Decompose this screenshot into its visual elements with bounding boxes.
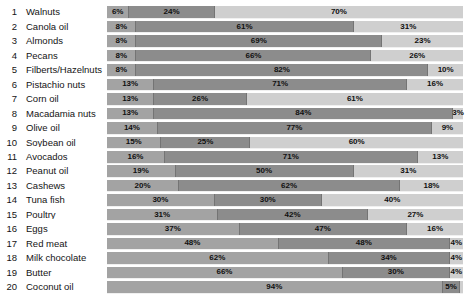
chart-row: 19 Butter 66% 30% 4% <box>4 265 463 279</box>
segment-1-value-label: 8% <box>115 37 127 45</box>
screenshot-canvas: 1 Walnuts 6% 24% 70% 2 Canola oil 8% 61%… <box>0 0 467 300</box>
segment-3-value-label: 40% <box>384 196 400 204</box>
bar-segment-3: 4% <box>449 267 463 279</box>
segment-2-value-label: 61% <box>237 23 253 31</box>
segment-2-value-label: 26% <box>192 95 208 103</box>
bar-segment-1: 31% <box>107 209 217 221</box>
bar-segment-3: 31% <box>353 21 463 33</box>
chart-row: 15 Poultry 31% 42% 27% <box>4 207 463 221</box>
chart-row: 18 Milk chocolate 62% 34% 4% <box>4 251 463 265</box>
bar-segment-1: 19% <box>107 165 175 177</box>
bar-segment-2: 30% <box>214 194 321 206</box>
segment-1-value-label: 13% <box>122 109 138 117</box>
segment-3-value-label: 10% <box>438 66 454 74</box>
stacked-bar: 20% 62% 18% <box>107 180 463 192</box>
segment-1-value-label: 8% <box>115 66 127 74</box>
stacked-bar: 8% 61% 31% <box>107 21 463 33</box>
stacked-bar: 16% 71% 13% <box>107 151 463 163</box>
stacked-bar: 13% 26% 61% <box>107 93 463 105</box>
segment-2-value-label: 66% <box>245 52 261 60</box>
segment-1-value-label: 14% <box>124 124 140 132</box>
segment-3-value-label: 70% <box>331 8 347 16</box>
segment-1-value-label: 48% <box>184 239 200 247</box>
segment-1-value-label: 66% <box>216 268 232 276</box>
bar-segment-1: 20% <box>107 180 178 192</box>
bar-segment-1: 94% <box>107 281 442 293</box>
segment-2-value-label: 82% <box>274 66 290 74</box>
stacked-bar: 30% 30% 40% <box>107 194 463 206</box>
segment-3-value-label: 31% <box>400 167 416 175</box>
segment-2-value-label: 77% <box>286 124 302 132</box>
bar-segment-1: 13% <box>107 93 153 105</box>
segment-3-value-label: 16% <box>427 80 443 88</box>
stacked-bar: 94% 5% <box>107 281 463 293</box>
stacked-bar: 19% 50% 31% <box>107 165 463 177</box>
bar-segment-2: 24% <box>128 6 213 18</box>
chart-row: 2 Canola oil 8% 61% 31% <box>4 19 463 33</box>
bar-segment-3: 16% <box>406 223 463 235</box>
bar-segment-2: 61% <box>135 21 352 33</box>
bar-segment-2: 48% <box>278 238 449 250</box>
row-label: Cashews <box>17 181 107 191</box>
row-label: Coconut oil <box>17 282 107 292</box>
row-rank: 3 <box>4 36 17 46</box>
row-label: Avocados <box>17 152 107 162</box>
segment-3-value-label: 4% <box>451 239 463 247</box>
stacked-bar: 8% 82% 10% <box>107 64 463 76</box>
segment-2-value-label: 69% <box>251 37 267 45</box>
segment-3-value-label: 27% <box>407 211 423 219</box>
bar-segment-1: 13% <box>107 108 153 120</box>
row-label: Pecans <box>17 51 107 61</box>
segment-3-value-label: 16% <box>427 225 443 233</box>
segment-2-value-label: 24% <box>164 8 180 16</box>
segment-3-value-label: 18% <box>423 182 439 190</box>
bar-segment-2: 34% <box>328 252 449 264</box>
bar-segment-1: 48% <box>107 238 278 250</box>
segment-1-value-label: 15% <box>126 138 142 146</box>
segment-2-value-label: 62% <box>281 182 297 190</box>
bar-segment-2: 82% <box>135 64 427 76</box>
row-label: Olive oil <box>17 123 107 133</box>
chart-row: 8 Macadamia nuts 13% 84% 3% <box>4 106 463 120</box>
segment-2-value-label: 30% <box>388 268 404 276</box>
bar-segment-3: 3% <box>452 108 463 120</box>
stacked-bar-chart: 1 Walnuts 6% 24% 70% 2 Canola oil 8% 61%… <box>0 0 467 300</box>
row-rank: 4 <box>4 51 17 61</box>
row-rank: 12 <box>4 166 17 176</box>
bar-segment-2: 5% <box>442 281 460 293</box>
segment-3-value-label: 26% <box>409 52 425 60</box>
bar-segment-3: 18% <box>399 180 463 192</box>
segment-1-value-label: 37% <box>165 225 181 233</box>
row-label: Pistachio nuts <box>17 80 107 90</box>
row-label: Red meat <box>17 239 107 249</box>
bar-segment-3: 40% <box>321 194 463 206</box>
segment-1-value-label: 94% <box>266 283 282 291</box>
segment-1-value-label: 13% <box>122 95 138 103</box>
segment-2-value-label: 5% <box>445 283 457 291</box>
bar-segment-2: 50% <box>175 165 353 177</box>
segment-3-value-label: 13% <box>432 153 448 161</box>
chart-row: 11 Avocados 16% 71% 13% <box>4 150 463 164</box>
bar-segment-3: 9% <box>431 122 463 134</box>
row-label: Milk chocolate <box>17 253 107 263</box>
segment-2-value-label: 48% <box>356 239 372 247</box>
segment-1-value-label: 19% <box>133 167 149 175</box>
stacked-bar: 13% 84% 3% <box>107 108 463 120</box>
row-rank: 19 <box>4 268 17 278</box>
bar-segment-3: 26% <box>370 50 463 62</box>
stacked-bar: 31% 42% 27% <box>107 209 463 221</box>
chart-row: 14 Tuna fish 30% 30% 40% <box>4 193 463 207</box>
chart-row: 1 Walnuts 6% 24% 70% <box>4 5 463 19</box>
bar-segment-2: 84% <box>153 108 452 120</box>
segment-1-value-label: 31% <box>154 211 170 219</box>
bar-segment-1: 66% <box>107 267 342 279</box>
bar-segment-1: 13% <box>107 79 153 91</box>
stacked-bar: 15% 25% 60% <box>107 137 463 149</box>
row-rank: 6 <box>4 80 17 90</box>
bar-segment-3: 27% <box>367 209 463 221</box>
stacked-bar: 8% 66% 26% <box>107 50 463 62</box>
row-rank: 11 <box>4 152 17 162</box>
bar-segment-2: 71% <box>164 151 417 163</box>
bar-segment-1: 8% <box>107 21 135 33</box>
chart-row: 5 Filberts/Hazelnuts 8% 82% 10% <box>4 63 463 77</box>
